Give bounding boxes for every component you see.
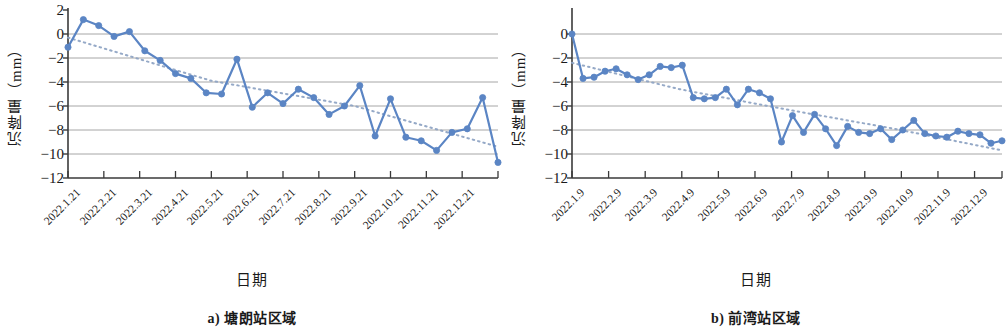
x-tick-label: 2022.7.21: [256, 186, 297, 227]
figure-row: 沉降量（mm） 20−2−4−6−8−10−12 2022.1.212022.2…: [0, 0, 1008, 333]
x-tick-label: 2022.2.9: [586, 186, 623, 223]
x-tick-label: 2022.6.21: [221, 186, 262, 227]
x-tick-label: 2022.4.9: [659, 186, 696, 223]
x-tick-label: 2022.1.9: [550, 186, 587, 223]
x-tick-label: 2022.8.9: [806, 186, 843, 223]
plot-area-a: 沉降量（mm） 20−2−4−6−8−10−12: [0, 0, 504, 200]
panel-a: 沉降量（mm） 20−2−4−6−8−10−12 2022.1.212022.2…: [0, 0, 504, 333]
panel-caption-b: b) 前湾站区域: [504, 307, 1008, 327]
chart-svg-b: [504, 0, 1008, 200]
x-tick-label: 2022.5.21: [185, 186, 226, 227]
x-tick-label: 2022.3.21: [113, 186, 154, 227]
x-tick-label: 2022.11.9: [912, 186, 953, 227]
x-axis-label-a: 日期: [0, 268, 504, 289]
x-tick-label: 2022.6.9: [733, 186, 770, 223]
x-tick-label: 2022.3.9: [623, 186, 660, 223]
x-tick-label: 2022.1.21: [41, 186, 82, 227]
plot-area-b: 沉降量（mm） 0−2−4−6−8−10−12: [504, 0, 1008, 200]
x-tick-label: 2022.2.21: [77, 186, 118, 227]
x-tick-label: 2022.10.9: [875, 186, 916, 227]
chart-svg-a: [0, 0, 504, 200]
x-axis-label-b: 日期: [504, 268, 1008, 289]
panel-b: 沉降量（mm） 0−2−4−6−8−10−12 2022.1.92022.2.9…: [504, 0, 1008, 333]
x-tick-label: 2022.12.9: [948, 186, 989, 227]
x-tick-label: 2022.5.9: [696, 186, 733, 223]
x-tick-label: 2022.8.21: [292, 186, 333, 227]
x-tick-label: 2022.4.21: [149, 186, 190, 227]
x-tick-label: 2022.7.9: [769, 186, 806, 223]
panel-caption-a: a) 塘朗站区域: [0, 307, 504, 327]
